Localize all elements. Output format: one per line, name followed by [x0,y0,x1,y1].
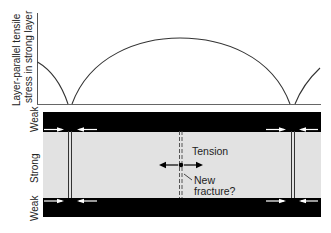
y-axis-label-line1: Layer-parallel tensile [11,14,22,106]
new-fracture-label-line2: fracture? [194,186,235,197]
fracture-spacing-diagram [0,0,331,233]
layer-label-bottom-weak: Weak [29,196,40,221]
tension-point [179,163,184,168]
y-axis-label-line2: stress in strong layer [23,11,34,103]
tension-label: Tension [192,146,228,157]
stress-curve-right [295,68,320,104]
layer-label-strong: Strong [29,154,40,183]
layer-label-top-weak: Weak [29,107,40,132]
stress-curve-main [72,38,290,104]
stress-curve-left [38,62,69,104]
tension-arrows [159,162,203,168]
